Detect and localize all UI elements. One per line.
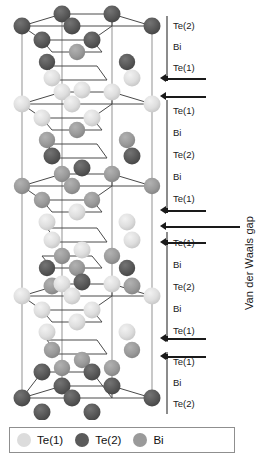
- layer-group-spine: [166, 232, 168, 342]
- arrow-shaft: [165, 338, 206, 340]
- legend-box: Te(1)Te(2)Bi: [9, 427, 235, 453]
- atom-layer-label-bi: Bi: [173, 42, 181, 52]
- spine-cap-mid-upper: [166, 208, 168, 213]
- legend-swatch-icon: [17, 433, 31, 447]
- arrow-shaft: [165, 356, 206, 358]
- atom-layer-label-bi: Bi: [173, 304, 181, 314]
- arrow-shaft: [165, 226, 240, 228]
- vdw-arrow-upper-b: [160, 92, 206, 101]
- arrow-shaft: [165, 210, 206, 212]
- legend-label: Bi: [153, 434, 163, 446]
- legend-item-bi: Bi: [133, 433, 175, 447]
- atom-layer-label-bi: Bi: [173, 172, 181, 182]
- layer-group-spine: [166, 100, 168, 210]
- crystal-structure-drawing: [0, 0, 165, 420]
- spine-cap-mid-lower: [166, 240, 168, 245]
- atoms: [14, 6, 161, 421]
- spine-cap-bottom: [166, 354, 168, 359]
- layer-group-spine: [166, 16, 168, 78]
- arrow-shaft: [165, 242, 206, 244]
- legend-swatch-icon: [75, 433, 89, 447]
- atom-layer-label-te1: Te(1): [173, 106, 195, 116]
- arrow-shaft: [165, 96, 206, 98]
- vdw-arrow-mid-long: [160, 222, 240, 231]
- atom-layer-label-te1: Te(1): [173, 63, 195, 73]
- atom-layer-label-bi: Bi: [173, 128, 181, 138]
- atom-layer-label-bi: Bi: [173, 260, 181, 270]
- legend-item-te2: Te(2): [75, 433, 133, 447]
- atom-layer-label-te2: Te(2): [173, 150, 195, 160]
- spine-cap-top: [166, 76, 168, 81]
- atom-layer-label-te1: Te(1): [173, 194, 195, 204]
- legend-label: Te(1): [37, 434, 63, 446]
- atom-layer-label-bi: Bi: [173, 378, 181, 388]
- atom-layer-label-te2: Te(2): [173, 21, 195, 31]
- legend-label: Te(2): [95, 434, 121, 446]
- atom-layer-label-te2: Te(2): [173, 399, 195, 409]
- arrow-shaft: [165, 78, 206, 80]
- atom-layer-label-te2: Te(2): [173, 282, 195, 292]
- figure-canvas: Te(2)BiTe(1)Te(1)BiTe(2)BiTe(1)Te(1)BiTe…: [0, 0, 258, 467]
- legend-item-te1: Te(1): [17, 433, 75, 447]
- spine-cap-lower: [166, 336, 168, 341]
- van-der-waals-gap-label: Van der Waals gap: [243, 216, 255, 310]
- legend-swatch-icon: [133, 433, 147, 447]
- layer-group-spine: [166, 352, 168, 414]
